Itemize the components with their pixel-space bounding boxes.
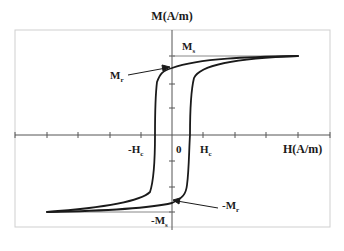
x-axis-label: H(A/m) [283, 142, 322, 156]
label-neg-hc: -Hc [128, 143, 143, 158]
hysteresis-diagram: M(A/m) H(A/m) 0 Ms Mr -Hc Hc -Mr -Ms [0, 0, 344, 251]
y-axis-label: M(A/m) [151, 9, 192, 23]
label-neg-mr: -Mr [222, 199, 239, 214]
label-ms: Ms [182, 40, 195, 55]
label-mr: Mr [110, 69, 124, 84]
origin-label: 0 [176, 143, 182, 155]
label-hc: Hc [200, 143, 212, 158]
